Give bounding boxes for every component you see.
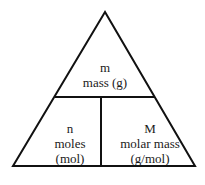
top-section-mass: m mass (g) (65, 60, 145, 90)
mass-description: mass (g) (65, 75, 145, 90)
bottom-right-section-molar-mass: M molar mass (g/mol) (103, 121, 197, 166)
mass-symbol: m (65, 60, 145, 75)
moles-description: moles (40, 136, 100, 151)
molar-mass-symbol: M (103, 121, 197, 136)
bottom-left-section-moles: n moles (mol) (40, 121, 100, 166)
moles-symbol: n (40, 121, 100, 136)
molar-mass-description: molar mass (103, 136, 197, 151)
molar-mass-unit: (g/mol) (103, 151, 197, 166)
formula-triangle-diagram: m mass (g) n moles (mol) M molar mass (g… (0, 0, 205, 185)
moles-unit: (mol) (40, 151, 100, 166)
